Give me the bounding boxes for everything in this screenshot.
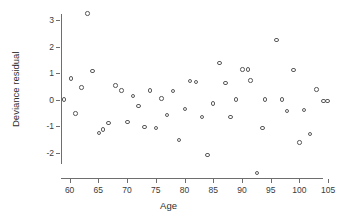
deviance-residual-scatter-figure: Deviance residual Age 606570758085909510… — [0, 0, 337, 222]
data-point — [131, 94, 135, 98]
x-tick-mark — [156, 179, 157, 183]
y-tick-label: 0 — [49, 95, 54, 105]
data-point — [228, 115, 232, 119]
x-tick-label: 100 — [292, 185, 306, 195]
data-point — [297, 140, 301, 144]
x-tick-mark — [299, 179, 300, 183]
x-tick-label: 95 — [266, 185, 275, 195]
x-tick-label: 90 — [237, 185, 246, 195]
data-point — [314, 87, 318, 91]
y-tick-mark — [56, 73, 60, 74]
data-point — [308, 132, 312, 136]
data-point — [62, 97, 66, 101]
data-point — [85, 11, 89, 15]
x-tick-mark — [328, 179, 329, 183]
plot-area — [61, 8, 331, 178]
data-point — [223, 81, 227, 85]
data-point — [183, 107, 187, 111]
data-point — [73, 111, 77, 115]
data-point — [274, 38, 278, 42]
data-point — [142, 125, 146, 129]
data-point — [113, 83, 117, 87]
data-point — [101, 127, 105, 131]
y-tick-mark — [56, 153, 60, 154]
data-point — [165, 113, 169, 117]
data-point — [125, 120, 129, 124]
data-point — [260, 126, 264, 130]
data-point — [217, 61, 221, 65]
data-point — [90, 69, 94, 73]
y-tick-mark — [56, 100, 60, 101]
data-point — [148, 88, 152, 92]
y-tick-label: -2 — [46, 148, 54, 158]
data-point — [285, 109, 289, 113]
x-tick-label: 85 — [208, 185, 217, 195]
data-point — [211, 101, 215, 105]
x-axis-line — [61, 178, 323, 179]
data-point — [325, 99, 329, 103]
x-tick-mark — [127, 179, 128, 183]
y-tick-mark — [56, 47, 60, 48]
data-point — [240, 67, 244, 71]
y-tick-mark — [56, 126, 60, 127]
x-tick-mark — [185, 179, 186, 183]
data-point — [154, 126, 158, 130]
data-point — [159, 96, 163, 100]
data-point — [188, 79, 192, 83]
x-tick-label: 65 — [94, 185, 103, 195]
x-tick-label: 80 — [180, 185, 189, 195]
y-tick-label: 2 — [49, 42, 54, 52]
x-tick-label: 105 — [321, 185, 335, 195]
x-tick-mark — [213, 179, 214, 183]
data-point — [97, 131, 101, 135]
x-tick-mark — [242, 179, 243, 183]
y-tick-label: -1 — [46, 121, 54, 131]
y-tick-mark — [56, 20, 60, 21]
data-point — [136, 104, 140, 108]
data-point — [246, 67, 250, 71]
x-tick-label: 60 — [65, 185, 74, 195]
data-point — [205, 153, 209, 157]
data-point — [106, 121, 110, 125]
data-point — [280, 97, 284, 101]
data-point — [291, 68, 295, 72]
data-point — [302, 108, 306, 112]
y-tick-label: 1 — [49, 68, 54, 78]
data-point — [171, 89, 175, 93]
data-point — [119, 88, 123, 92]
x-tick-mark — [98, 179, 99, 183]
x-axis-title: Age — [0, 200, 337, 211]
data-point — [177, 138, 181, 142]
data-point — [248, 78, 252, 82]
data-point — [200, 115, 204, 119]
x-tick-mark — [70, 179, 71, 183]
data-point — [263, 97, 267, 101]
data-point — [234, 97, 238, 101]
data-point — [69, 76, 73, 80]
data-point — [255, 171, 259, 175]
x-tick-label: 70 — [122, 185, 131, 195]
data-point — [194, 80, 198, 84]
y-axis-title: Deviance residual — [8, 0, 22, 178]
data-point — [79, 85, 83, 89]
y-tick-label: 3 — [49, 15, 54, 25]
x-tick-mark — [271, 179, 272, 183]
x-tick-label: 75 — [151, 185, 160, 195]
